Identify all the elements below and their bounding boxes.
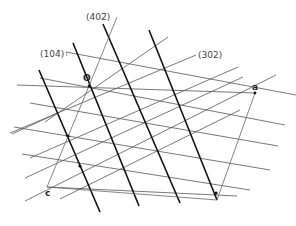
label-leader [66, 52, 67, 56]
label-402bar: (402̄) [86, 12, 110, 22]
plane-line [73, 43, 139, 206]
plane-line [25, 75, 276, 201]
lattice-dot [214, 191, 217, 194]
plane-line [17, 85, 255, 93]
edge-a-diag [217, 93, 255, 200]
label-c: c [45, 188, 50, 198]
label-104bar: (104̄) [40, 49, 64, 59]
plane-line [22, 154, 250, 190]
plane-line [60, 110, 240, 199]
plane-line [40, 78, 285, 125]
lattice-dot [78, 164, 81, 167]
lattice-diagram: (402̄) (104̄) (302) O a c [0, 0, 296, 226]
label-302: (302) [198, 50, 222, 60]
plane-line [103, 24, 180, 203]
plane-family-104bar [14, 52, 296, 196]
plane-line [10, 55, 196, 133]
a-dot [254, 92, 257, 95]
origin-dot [88, 85, 91, 88]
label-origin: O [83, 73, 91, 83]
plane-402bar-leader [89, 17, 117, 86]
unit-cell-outline [47, 17, 255, 200]
plane-line [30, 103, 278, 146]
lattice-dot [66, 134, 69, 137]
label-a: a [252, 82, 258, 92]
